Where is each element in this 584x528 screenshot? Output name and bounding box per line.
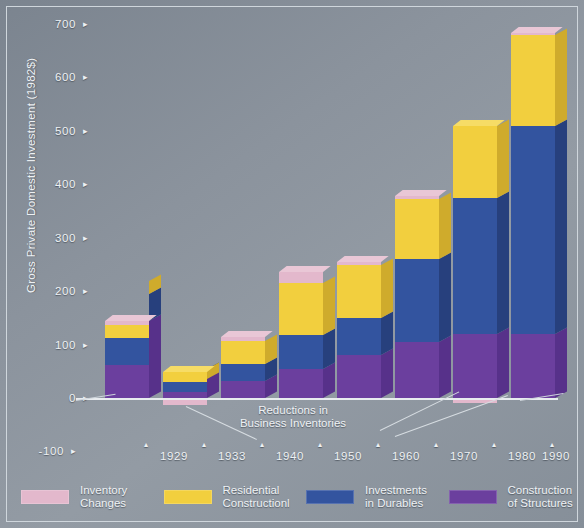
x-label-1960: 1960 — [392, 450, 420, 462]
legend-label-construction-of-structures: Construction of Structures — [508, 484, 573, 510]
segment-structures-1940 — [221, 381, 265, 398]
x-marker-1929-icon: ▴ — [144, 440, 148, 449]
segment-inventory-1970 — [395, 196, 439, 199]
segment-structures-1970 — [395, 342, 439, 398]
x-label-1929: 1929 — [160, 450, 188, 462]
legend-label-inventory-changes: Inventory Changes — [80, 484, 127, 510]
tick-arrow-icon: ▸ — [83, 19, 89, 29]
leader-line-1980b — [395, 395, 508, 437]
legend-item-inventory-changes[interactable]: Inventory Changes — [7, 484, 150, 510]
segment-inventory-1929 — [105, 321, 149, 325]
x-label-1933: 1933 — [218, 450, 246, 462]
x-marker-1950-icon: ▴ — [318, 440, 322, 449]
zero-baseline — [76, 398, 558, 400]
legend-item-construction-of-structures[interactable]: Construction of Structures — [435, 484, 578, 510]
bar-1929 — [105, 0, 149, 398]
tick-arrow-icon: ▸ — [83, 72, 89, 82]
y-axis-label: Gross Private Domestic Investment (1982$… — [25, 63, 37, 293]
x-marker-1940-icon: ▴ — [260, 440, 264, 449]
segment-inventory-1990 — [511, 33, 555, 35]
y-tick-400: 400▸ — [42, 178, 89, 190]
chart-legend: Inventory Changes Residential Constructi… — [7, 472, 577, 521]
segment-durables-1970 — [395, 259, 439, 342]
bar-1980 — [453, 0, 497, 410]
segment-durables-1990 — [511, 126, 555, 334]
segment-residential-1960 — [337, 265, 381, 318]
y-tick-600: 600▸ — [42, 71, 89, 83]
x-label-1950: 1950 — [334, 450, 362, 462]
legend-label-residential-construction: Residential Constructionl — [223, 484, 290, 510]
x-marker-1970-icon: ▴ — [434, 440, 438, 449]
segment-structures-1990 — [511, 334, 555, 398]
bar-1960 — [337, 0, 381, 398]
segment-residential-1970 — [395, 199, 439, 259]
segment-residential-1980 — [453, 126, 497, 198]
tick-arrow-icon: ▸ — [83, 233, 89, 243]
annotation-reductions: Reductions in Business Inventories — [205, 404, 381, 430]
x-marker-1933-icon: ▴ — [202, 440, 206, 449]
segment-inventory-1960 — [337, 262, 381, 265]
y-tick-500: 500▸ — [42, 125, 89, 137]
y-tick-100: 100▸ — [42, 339, 89, 351]
segment-durables-1933 — [163, 382, 207, 392]
x-marker-1990-icon: ▴ — [550, 440, 554, 449]
tick-arrow-icon: ▸ — [83, 179, 89, 189]
segment-residential-1990 — [511, 35, 555, 126]
x-label-1980: 1980 — [508, 450, 536, 462]
tick-arrow-icon: ▸ — [83, 340, 89, 350]
bar-1970 — [395, 0, 439, 398]
legend-item-residential-construction[interactable]: Residential Constructionl — [150, 484, 293, 510]
bar-1933 — [163, 0, 207, 420]
bar-1950 — [279, 0, 323, 398]
x-label-1990: 1990 — [542, 450, 570, 462]
y-tick-neg100: -100▸ — [30, 445, 77, 457]
annotation-line2: Business Inventories — [205, 417, 381, 430]
segment-durables-1980 — [453, 198, 497, 334]
tick-arrow-icon: ▸ — [71, 446, 77, 456]
bar-1990 — [511, 0, 555, 398]
legend-swatch-investments-in-durables — [306, 490, 354, 504]
legend-swatch-construction-of-structures — [449, 490, 497, 504]
segment-inventory-1940 — [221, 337, 265, 341]
legend-item-investments-in-durables[interactable]: Investments in Durables — [292, 484, 435, 510]
legend-label-investments-in-durables: Investments in Durables — [365, 484, 427, 510]
annotation-line1: Reductions in — [205, 404, 381, 417]
x-label-1940: 1940 — [276, 450, 304, 462]
segment-structures-1929 — [105, 365, 149, 398]
segment-durables-1950 — [279, 335, 323, 369]
segment-residential-1940 — [221, 341, 265, 364]
legend-swatch-residential-construction — [164, 490, 212, 504]
segment-residential-1929 — [105, 325, 149, 338]
plot-area: Gross Private Domestic Investment (1982$… — [0, 0, 584, 470]
y-tick-200: 200▸ — [42, 285, 89, 297]
segment-residential-1933 — [163, 372, 207, 382]
segment-structures-1960 — [337, 355, 381, 398]
segment-structures-1980 — [453, 334, 497, 398]
y-tick-700: 700▸ — [42, 18, 89, 30]
segment-durables-1929 — [105, 338, 149, 365]
tick-arrow-icon: ▸ — [83, 286, 89, 296]
tick-arrow-icon: ▸ — [83, 126, 89, 136]
bar-1940 — [221, 0, 265, 398]
segment-inventory-1950 — [279, 272, 323, 283]
y-tick-300: 300▸ — [42, 232, 89, 244]
segment-durables-1940 — [221, 364, 265, 381]
x-label-1970: 1970 — [450, 450, 478, 462]
segment-structures-1950 — [279, 369, 323, 398]
x-marker-1960-icon: ▴ — [376, 440, 380, 449]
legend-swatch-inventory-changes — [21, 490, 69, 504]
bar-side-1929 — [149, 315, 161, 398]
chart-figure: Gross Private Domestic Investment (1982$… — [0, 0, 584, 528]
segment-residential-1950 — [279, 283, 323, 335]
x-marker-1980-icon: ▴ — [492, 440, 496, 449]
segment-durables-1960 — [337, 318, 381, 355]
